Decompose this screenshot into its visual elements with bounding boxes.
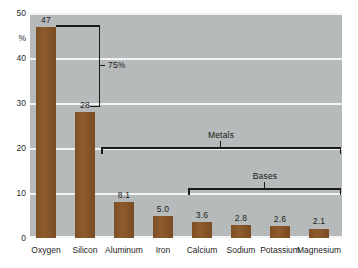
percent-bracket-label-text: 75% bbox=[108, 60, 126, 70]
bases-bracket-label: Bases bbox=[253, 171, 278, 181]
bar-silicon bbox=[75, 112, 95, 238]
bar-iron bbox=[153, 216, 173, 239]
bar-value-sodium-text: 2.8 bbox=[235, 213, 247, 223]
bar-aluminum bbox=[114, 202, 134, 239]
metals-bracket-label: Metals bbox=[208, 130, 234, 140]
percent-bracket-tick bbox=[100, 65, 105, 66]
bases-bracket-tick bbox=[264, 182, 265, 189]
category-label-silicon-text: Silicon bbox=[72, 245, 97, 255]
percent-bracket-label: 75% bbox=[108, 60, 126, 70]
category-label-silicon: Silicon bbox=[72, 245, 97, 255]
y-axis-unit-label: % bbox=[18, 33, 26, 43]
bar-value-sodium: 2.8 bbox=[235, 213, 247, 223]
plot-area: 47 28 8.1 5.0 3.6 2.8 2.6 2.1 75% Metals… bbox=[30, 13, 342, 238]
category-label-iron-text: Iron bbox=[156, 245, 171, 255]
bar-value-silicon: 28 bbox=[80, 100, 90, 110]
bases-bracket-label-text: Bases bbox=[253, 171, 278, 181]
bar-value-calcium-text: 3.6 bbox=[196, 210, 208, 220]
bases-bracket-right-end bbox=[340, 188, 342, 195]
gridline-40 bbox=[30, 58, 342, 60]
category-label-sodium-text: Sodium bbox=[227, 245, 256, 255]
category-label-aluminum-text: Aluminum bbox=[105, 245, 143, 255]
y-tick-20-label: 20 bbox=[17, 143, 26, 153]
bar-value-silicon-text: 28 bbox=[80, 100, 90, 110]
category-label-potassium-text: Potassium bbox=[260, 245, 300, 255]
y-tick-10-label: 10 bbox=[17, 188, 26, 198]
y-tick-30-label: 30 bbox=[17, 98, 26, 108]
bar-value-aluminum: 8.1 bbox=[118, 190, 130, 200]
bar-sodium bbox=[231, 225, 251, 238]
bar-value-potassium: 2.6 bbox=[274, 214, 286, 224]
gridline-50 bbox=[30, 13, 342, 15]
bar-potassium bbox=[270, 226, 290, 238]
category-label-potassium: Potassium bbox=[260, 245, 300, 255]
category-label-iron: Iron bbox=[156, 245, 171, 255]
category-label-aluminum: Aluminum bbox=[105, 245, 143, 255]
y-axis-unit: % bbox=[0, 33, 30, 43]
percent-bracket-top-arm bbox=[56, 25, 100, 27]
percent-bracket-bottom-arm bbox=[90, 106, 100, 108]
bar-magnesium bbox=[309, 229, 329, 239]
y-tick-20: 20 bbox=[0, 143, 30, 153]
bar-calcium bbox=[192, 222, 212, 238]
y-tick-10: 10 bbox=[0, 188, 30, 198]
y-tick-30: 30 bbox=[0, 98, 30, 108]
bar-value-aluminum-text: 8.1 bbox=[118, 190, 130, 200]
y-tick-50-label: 50 bbox=[17, 8, 26, 18]
bases-bracket-left-end bbox=[188, 188, 190, 195]
bar-value-iron: 5.0 bbox=[157, 204, 169, 214]
category-label-magnesium-text: Magnesium bbox=[297, 245, 341, 255]
y-tick-0-label: 0 bbox=[21, 233, 26, 243]
metals-bracket-label-text: Metals bbox=[208, 130, 234, 140]
metals-bracket-left-end bbox=[101, 147, 103, 154]
category-label-oxygen-text: Oxygen bbox=[31, 245, 60, 255]
y-tick-40-label: 40 bbox=[17, 53, 26, 63]
bar-value-magnesium-text: 2.1 bbox=[313, 216, 325, 226]
y-tick-40: 40 bbox=[0, 53, 30, 63]
bar-chart: 50 % 40 30 20 10 0 47 28 8.1 bbox=[0, 0, 358, 268]
gridline-30 bbox=[30, 103, 342, 105]
bar-oxygen bbox=[36, 27, 56, 239]
bar-value-oxygen: 47 bbox=[41, 15, 51, 25]
metals-bracket-right-end bbox=[340, 147, 342, 154]
category-label-magnesium: Magnesium bbox=[297, 245, 341, 255]
y-tick-50: 50 bbox=[0, 8, 30, 18]
bar-value-magnesium: 2.1 bbox=[313, 216, 325, 226]
bar-value-oxygen-text: 47 bbox=[41, 15, 51, 25]
bar-value-iron-text: 5.0 bbox=[157, 204, 169, 214]
category-label-calcium-text: Calcium bbox=[187, 245, 218, 255]
category-label-calcium: Calcium bbox=[187, 245, 218, 255]
category-label-oxygen: Oxygen bbox=[31, 245, 60, 255]
y-tick-0: 0 bbox=[0, 233, 30, 243]
bar-value-potassium-text: 2.6 bbox=[274, 214, 286, 224]
bar-value-calcium: 3.6 bbox=[196, 210, 208, 220]
metals-bracket-tick bbox=[220, 141, 221, 148]
category-label-sodium: Sodium bbox=[227, 245, 256, 255]
